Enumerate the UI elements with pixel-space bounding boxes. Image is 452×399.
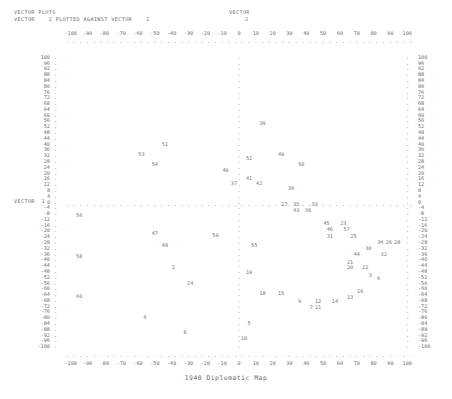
axis-tick-dot: . bbox=[268, 38, 271, 44]
axis-tick-dot: . bbox=[207, 38, 210, 44]
data-point-label: 52 bbox=[246, 155, 252, 161]
axis-line-bottom: ........................................… bbox=[0, 352, 452, 358]
axis-tick-dot: . bbox=[93, 352, 96, 358]
x-tick-label: 80 bbox=[370, 30, 376, 36]
axis-tick-dot: . bbox=[207, 201, 210, 207]
axis-tick-dot: . bbox=[335, 38, 338, 44]
axis-tick-dot: . bbox=[147, 201, 150, 207]
axis-tick-dot: . bbox=[409, 352, 412, 358]
axis-tick-dot: . bbox=[93, 201, 96, 207]
x-tick-label: 100 bbox=[403, 30, 412, 36]
axis-tick-dot: . bbox=[214, 201, 217, 207]
axis-tick-dot: . bbox=[234, 352, 237, 358]
x-tick-label: 90 bbox=[387, 360, 393, 366]
axis-tick-dot: . bbox=[66, 38, 69, 44]
x-tick-label: 10 bbox=[253, 30, 259, 36]
x-tick-label: 50 bbox=[320, 360, 326, 366]
data-point-label: 7 bbox=[310, 304, 313, 310]
axis-line-horizontal-zero: ........................................… bbox=[0, 201, 452, 207]
data-point-label: 33 bbox=[312, 201, 318, 207]
axis-tick-dot: . bbox=[66, 201, 69, 207]
axis-tick-dot: . bbox=[274, 201, 277, 207]
axis-tick-dot: . bbox=[396, 201, 399, 207]
axis-tick-dot: . bbox=[106, 352, 109, 358]
axis-tick-dot: . bbox=[180, 38, 183, 44]
axis-tick-dot: . bbox=[180, 201, 183, 207]
y-axis-title-number: 2 bbox=[245, 16, 248, 22]
axis-tick-dot: . bbox=[342, 201, 345, 207]
x-tick-label: 60 bbox=[337, 30, 343, 36]
x-tick-label: -60 bbox=[133, 360, 142, 366]
axis-tick-dot: . bbox=[126, 352, 129, 358]
x-axis-tick-labels-bottom: -100-90-80-70-60-50-40-30-20-10010203040… bbox=[0, 360, 452, 368]
x-tick-label: 0 bbox=[237, 360, 240, 366]
axis-tick-dot: . bbox=[274, 38, 277, 44]
x-tick-label: 40 bbox=[303, 30, 309, 36]
axis-tick-dot: . bbox=[234, 201, 237, 207]
axis-tick-dot: . bbox=[153, 201, 156, 207]
data-point-label: 27 bbox=[281, 201, 287, 207]
axis-tick-dot: . bbox=[126, 38, 129, 44]
axis-tick-dot: . bbox=[167, 201, 170, 207]
axis-tick-dot: . bbox=[194, 201, 197, 207]
data-point-label: 40 bbox=[222, 167, 228, 173]
axis-tick-dot: . bbox=[237, 344, 240, 349]
x-tick-label: 90 bbox=[387, 30, 393, 36]
axis-tick-dot: . bbox=[241, 38, 244, 44]
axis-tick-dot: . bbox=[86, 38, 89, 44]
axis-tick-dot: . bbox=[335, 201, 338, 207]
x-tick-label: 0 bbox=[237, 30, 240, 36]
data-point-label: 30 bbox=[365, 245, 371, 251]
axis-tick-dot: . bbox=[86, 352, 89, 358]
x-tick-label: 30 bbox=[286, 30, 292, 36]
axis-tick-dot: . bbox=[322, 201, 325, 207]
axis-tick-dot: . bbox=[160, 201, 163, 207]
axis-tick-dot: . bbox=[113, 352, 116, 358]
axis-tick-dot: . bbox=[120, 201, 123, 207]
axis-tick-dot: . bbox=[194, 38, 197, 44]
axis-tick-dot: . bbox=[362, 38, 365, 44]
data-point-label: 28 bbox=[394, 239, 400, 245]
data-point-label: 2 bbox=[172, 264, 175, 270]
axis-tick-dot: . bbox=[99, 201, 102, 207]
axis-tick-dot: . bbox=[389, 38, 392, 44]
x-tick-label: -100 bbox=[64, 30, 77, 36]
report-heading-line-2: VECTOR 2 PLOTTED AGAINST VECTOR 1 bbox=[14, 16, 149, 22]
axis-tick-dot: . bbox=[328, 38, 331, 44]
axis-tick-dot: . bbox=[173, 352, 176, 358]
axis-tick-dot: . bbox=[342, 352, 345, 358]
axis-tick-dot: . bbox=[79, 352, 82, 358]
x-tick-label: -90 bbox=[83, 30, 92, 36]
axis-tick-dot: . bbox=[221, 201, 224, 207]
x-tick-label: 70 bbox=[354, 360, 360, 366]
data-point-label: 31 bbox=[327, 233, 333, 239]
axis-tick-dot: . bbox=[99, 352, 102, 358]
axis-tick-dot: . bbox=[106, 38, 109, 44]
axis-tick-dot: . bbox=[79, 201, 82, 207]
axis-tick-dot: . bbox=[173, 201, 176, 207]
x-tick-label: -10 bbox=[217, 30, 226, 36]
axis-tick-dot: . bbox=[113, 201, 116, 207]
axis-tick-dot: . bbox=[160, 352, 163, 358]
x-tick-label: -70 bbox=[117, 30, 126, 36]
axis-tick-dot: . bbox=[120, 352, 123, 358]
axis-tick-dot: . bbox=[348, 352, 351, 358]
x-tick-label: 50 bbox=[320, 30, 326, 36]
x-tick-label: 100 bbox=[403, 360, 412, 366]
data-point-label: 59 bbox=[212, 232, 218, 238]
axis-tick-dot: . bbox=[362, 352, 365, 358]
axis-tick-dot: . bbox=[200, 352, 203, 358]
axis-tick-dot: . bbox=[140, 201, 143, 207]
data-point-label: 25 bbox=[350, 233, 356, 239]
axis-tick-dot: . bbox=[322, 38, 325, 44]
x-tick-label: -40 bbox=[167, 30, 176, 36]
data-point-label: 22 bbox=[362, 264, 368, 270]
axis-tick-dot: . bbox=[120, 38, 123, 44]
x-tick-label: -40 bbox=[167, 360, 176, 366]
axis-tick-dot: . bbox=[396, 352, 399, 358]
axis-tick-dot: . bbox=[375, 201, 378, 207]
data-point-label: 41 bbox=[246, 175, 252, 181]
data-point-label: 19 bbox=[246, 269, 252, 275]
axis-tick-dot: . bbox=[254, 352, 257, 358]
axis-tick-dot: . bbox=[227, 38, 230, 44]
